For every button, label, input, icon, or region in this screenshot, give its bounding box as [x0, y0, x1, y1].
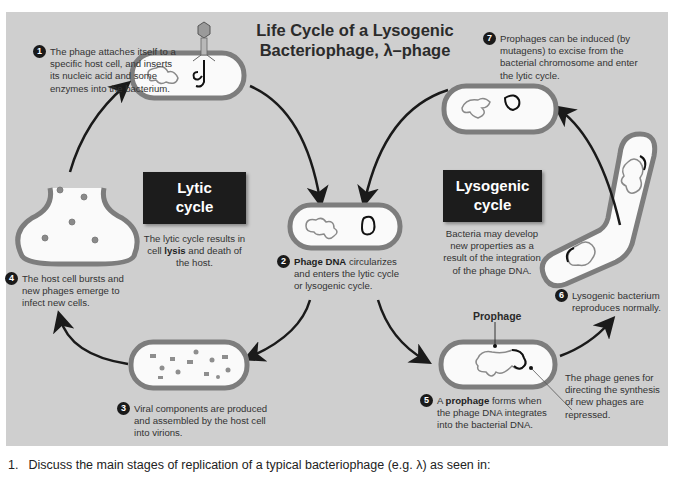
title-line-1: Life Cycle of a Lysogenic — [250, 20, 460, 40]
lytic-box-line-1: Lytic — [143, 178, 246, 197]
diagram-title: Life Cycle of a Lysogenic Bacteriophage,… — [250, 20, 460, 60]
step-number-badge: 7 — [483, 32, 496, 45]
question-1: 1.Discuss the main stages of replication… — [8, 458, 491, 472]
step-1: 1 The phage attaches itself to a specifi… — [50, 46, 180, 95]
cell-dividing — [542, 134, 655, 286]
arrow-3-to-4 — [60, 318, 128, 364]
step-number-badge: 1 — [33, 45, 46, 58]
phage-genes-annotation: The phage genes for directing the synthe… — [565, 372, 660, 421]
question-text: Discuss the main stages of replication o… — [28, 458, 490, 472]
arrow-2-to-5 — [378, 300, 425, 360]
step-number-badge: 5 — [420, 394, 433, 407]
step-7: 7 Prophages can be induced (by mutagens)… — [500, 33, 650, 82]
cell-burst — [18, 187, 137, 264]
arrow-1-to-2 — [250, 86, 320, 200]
step-6: 6 Lysogenic bacterium reproduces normall… — [572, 290, 667, 314]
step-text: The host cell bursts and new phages emer… — [22, 273, 124, 308]
step-4: 4 The host cell bursts and new phages em… — [22, 273, 142, 310]
arrow-7-to-2 — [365, 90, 448, 200]
cell-assembly — [131, 342, 247, 388]
cell-induced — [444, 86, 556, 132]
lytic-cycle-box: Lytic cycle — [143, 172, 246, 224]
title-line-2: Bacteriophage, λ–phage — [250, 40, 460, 60]
step-number-badge: 3 — [117, 402, 130, 415]
step-number-badge: 6 — [555, 289, 568, 302]
arrow-2-to-3 — [250, 300, 310, 357]
prophage-label: Prophage — [473, 310, 521, 322]
step-2: 2 Phage DNA circularizes and enters the … — [294, 256, 404, 293]
lysogenic-cycle-description: Bacteria may develop new properties as a… — [438, 228, 546, 277]
question-number: 1. — [8, 458, 18, 472]
lysogenic-cycle-box: Lysogenic cycle — [443, 170, 542, 222]
step-number-badge: 4 — [5, 272, 18, 285]
step-3: 3 Viral components are produced and asse… — [134, 403, 274, 440]
step-number-badge: 2 — [277, 255, 290, 268]
step-bold-text: prophage — [446, 395, 490, 406]
step-text: Prophages can be induced (by mutagens) t… — [500, 33, 638, 81]
lytic-cycle-description: The lytic cycle results in cell lysis an… — [143, 233, 246, 270]
cell-circularize — [290, 205, 400, 248]
step-text: The phage attaches itself to a specific … — [50, 46, 176, 94]
step-bold-text: Phage DNA — [294, 256, 346, 267]
arrow-5-to-6 — [560, 322, 610, 356]
lysogenic-box-line-2: cycle — [443, 195, 542, 214]
lytic-desc-post: and death of the host. — [176, 245, 242, 268]
step-text: Viral components are produced and assemb… — [134, 403, 267, 438]
lytic-desc-bold: lysis — [164, 245, 185, 256]
step-text: Lysogenic bacterium reproduces normally. — [572, 290, 661, 313]
arrow-4-to-1 — [70, 86, 125, 172]
step-5: 5 A prophage forms when the phage DNA in… — [437, 395, 552, 432]
lysogenic-box-line-1: Lysogenic — [443, 176, 542, 195]
step-text-pre: A — [437, 395, 446, 406]
lytic-box-line-2: cycle — [143, 197, 246, 216]
